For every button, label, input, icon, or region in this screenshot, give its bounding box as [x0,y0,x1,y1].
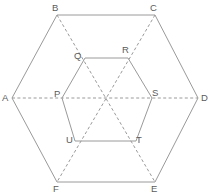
vertex-label-S: S [152,88,158,98]
vertex-label-F: F [53,184,59,194]
vertex-label-R: R [122,45,129,55]
geometry-canvas [0,0,211,195]
vertex-label-T: T [136,135,142,145]
vertex-label-A: A [2,93,8,103]
vertex-label-Q: Q [74,51,81,61]
vertex-label-E: E [151,184,157,194]
vertex-label-D: D [201,93,208,103]
vertex-label-C: C [150,3,157,13]
vertex-label-U: U [66,135,73,145]
vertex-label-P: P [54,89,60,99]
vertex-label-B: B [52,3,58,13]
geometry-figure: A B C D E F P Q R S T U [0,0,211,195]
